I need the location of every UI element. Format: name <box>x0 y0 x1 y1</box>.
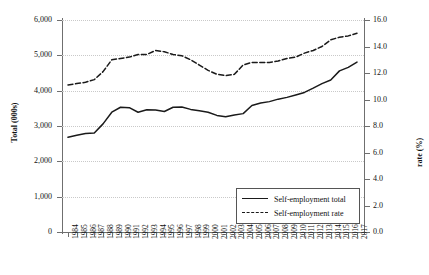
legend-item-self-employment-rate: Self-employment rate <box>241 206 355 220</box>
legend-key-dashed-icon <box>241 208 269 218</box>
series-line-self-employment-rate <box>68 33 357 85</box>
legend-item-self-employment-total: Self-employment total <box>241 192 355 206</box>
legend-label-total: Self-employment total <box>274 195 346 204</box>
legend-label-rate: Self-employment rate <box>274 209 344 218</box>
series-canvas <box>0 0 429 275</box>
series-line-self-employment-total <box>68 62 357 137</box>
legend-key-solid-icon <box>241 194 269 204</box>
chart-legend: Self-employment total Self-employment ra… <box>236 188 360 224</box>
chart-figure: Total (000s) rate (%) 01,0002,0003,0004,… <box>0 0 429 275</box>
